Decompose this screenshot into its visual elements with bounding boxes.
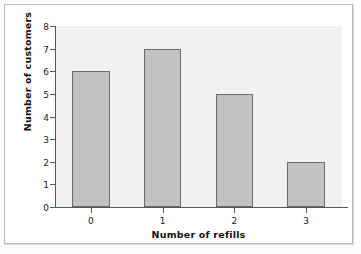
figure-frame: 012345678 0123 Number of customers Numbe…: [4, 4, 353, 244]
y-tick-mark: [50, 139, 55, 140]
y-tick-label: 1: [5, 180, 49, 190]
y-tick-mark: [50, 162, 55, 163]
y-tick-mark: [50, 71, 55, 72]
bar: [144, 49, 181, 207]
y-tick-label: 2: [5, 158, 49, 168]
y-tick-mark: [50, 94, 55, 95]
y-tick-mark: [50, 26, 55, 27]
y-tick-mark: [50, 207, 55, 208]
x-tick-label: 3: [286, 216, 326, 226]
chart-screenshot: 012345678 0123 Number of customers Numbe…: [0, 0, 361, 254]
x-tick-mark: [306, 208, 307, 213]
y-tick-mark: [50, 184, 55, 185]
x-axis-title: Number of refills: [55, 229, 342, 240]
x-tick-mark: [163, 208, 164, 213]
y-axis-title: Number of customers: [22, 2, 33, 142]
y-tick-label: 0: [5, 203, 49, 213]
x-tick-mark: [234, 208, 235, 213]
bar: [72, 71, 109, 207]
x-axis-line: [55, 207, 348, 208]
y-tick-mark: [50, 49, 55, 50]
y-axis-line: [55, 26, 56, 207]
y-tick-mark: [50, 117, 55, 118]
bar: [287, 162, 324, 207]
x-tick-label: 2: [214, 216, 254, 226]
x-tick-mark: [91, 208, 92, 213]
x-tick-label: 0: [71, 216, 111, 226]
bar: [216, 94, 253, 207]
x-tick-label: 1: [143, 216, 183, 226]
